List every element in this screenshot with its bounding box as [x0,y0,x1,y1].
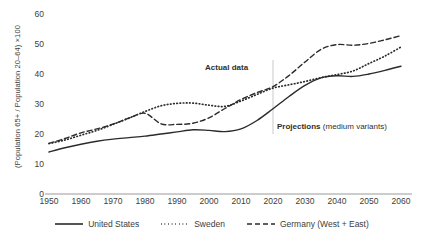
legend-label: United States [88,219,139,229]
annotation-projections-bold: Projections [277,122,321,131]
aging-ratio-line-chart: (Population 65+ / Population 20–64) ×100… [0,0,424,241]
legend-swatch-dotted-icon [161,220,189,228]
plot-area [0,0,424,241]
annotation-actual-data: Actual data [205,63,248,72]
legend-label: Sweden [194,219,225,229]
legend-item-sweden[interactable]: Sweden [161,219,225,229]
legend-label: Germany (West + East) [280,219,369,229]
legend-swatch-dashed-icon [247,220,275,228]
legend-swatch-solid-icon [55,220,83,228]
legend-item-germany[interactable]: Germany (West + East) [247,219,369,229]
legend-item-united-states[interactable]: United States [55,219,139,229]
annotation-projections: Projections (medium variants) [277,122,387,131]
chart-legend: United States Sweden Germany (West + Eas… [0,219,424,229]
annotation-projections-rest: (medium variants) [321,122,387,131]
